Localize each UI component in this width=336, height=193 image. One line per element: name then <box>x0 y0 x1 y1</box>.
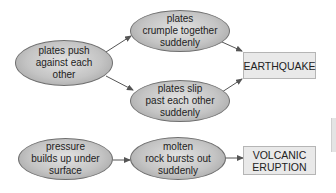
arrow-crumple-to-earthquake <box>222 42 242 51</box>
arrow-push-to-crumple <box>106 36 131 52</box>
arrow-push-to-slip <box>106 76 133 90</box>
arrow-slip-to-earthquake <box>222 79 242 92</box>
node-plates-push-label: plates push against each other <box>36 45 93 81</box>
node-molten-rock: molten rock bursts out suddenly <box>130 137 226 180</box>
node-earthquake: EARTHQUAKE <box>243 52 316 79</box>
node-pressure: pressure builds up under surface <box>18 138 113 180</box>
node-plates-crumple-label: plates crumple together suddenly <box>142 13 217 49</box>
node-molten-rock-label: molten rock bursts out suddenly <box>145 141 211 177</box>
node-volcanic-eruption-label: VOLCANIC ERUPTION <box>252 149 306 173</box>
node-pressure-label: pressure builds up under surface <box>31 141 99 177</box>
node-plates-push: plates push against each other <box>15 40 113 86</box>
node-volcanic-eruption: VOLCANIC ERUPTION <box>243 146 316 175</box>
node-plates-slip: plates slip past each other suddenly <box>130 80 230 122</box>
page-edge-mark <box>331 118 336 152</box>
node-earthquake-label: EARTHQUAKE <box>243 60 315 72</box>
node-plates-slip-label: plates slip past each other suddenly <box>146 83 215 119</box>
node-plates-crumple: plates crumple together suddenly <box>130 10 230 52</box>
